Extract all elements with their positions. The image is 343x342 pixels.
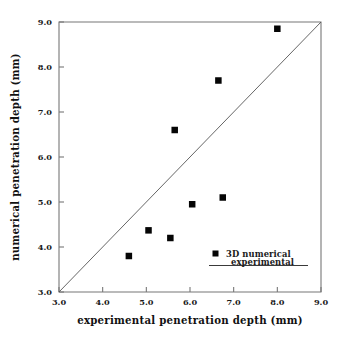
legend-label-experimental: experimental xyxy=(231,257,294,267)
x-axis-title: experimental penetration depth (mm) xyxy=(77,314,303,326)
x-tick-label: 6.0 xyxy=(183,297,198,307)
x-tick-label: 9.0 xyxy=(314,297,329,307)
x-tick-label: 7.0 xyxy=(227,297,242,307)
data-point-marker xyxy=(215,77,222,84)
scatter-plot: 3.04.05.06.07.08.09.0 3.04.05.06.07.08.0… xyxy=(0,0,343,342)
x-tick-label: 4.0 xyxy=(96,297,111,307)
y-tick-label: 3.0 xyxy=(38,287,53,297)
y-tick-label: 9.0 xyxy=(38,17,53,27)
y-tick-label: 8.0 xyxy=(38,62,53,72)
data-point-marker xyxy=(189,201,196,208)
data-point-marker xyxy=(145,227,152,234)
data-point-marker xyxy=(167,235,174,242)
x-tick-label: 8.0 xyxy=(270,297,285,307)
data-point-marker xyxy=(220,194,227,201)
y-axis-title: numerical penetration depth (mm) xyxy=(9,53,21,261)
y-tick-label: 5.0 xyxy=(38,197,53,207)
data-point-marker xyxy=(171,127,178,134)
data-point-marker xyxy=(126,253,133,260)
x-tick-label: 3.0 xyxy=(52,297,67,307)
x-tick-label: 5.0 xyxy=(139,297,154,307)
legend-marker-square-icon xyxy=(213,251,219,257)
data-point-marker xyxy=(274,26,281,33)
y-tick-label: 4.0 xyxy=(38,242,53,252)
y-tick-label: 6.0 xyxy=(38,152,53,162)
chart-figure: 3.04.05.06.07.08.09.0 3.04.05.06.07.08.0… xyxy=(0,0,343,342)
y-tick-label: 7.0 xyxy=(38,107,53,117)
